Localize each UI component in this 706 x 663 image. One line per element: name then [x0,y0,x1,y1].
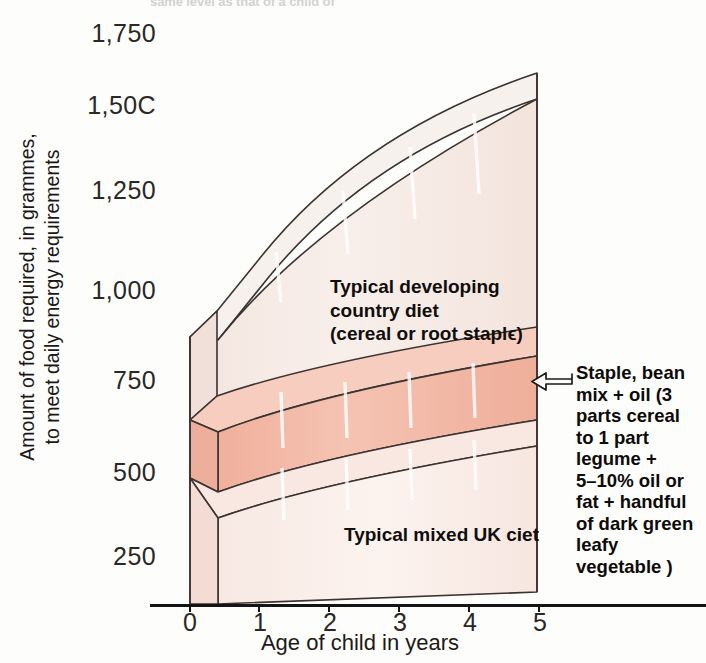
x-axis-title: Age of child in years [150,630,570,656]
series-label-uk-diet: Typical mixed UK ciet [344,523,539,547]
y-tick-label-1500: 1,50C [36,93,156,118]
series-label-developing-line-2: country diet [330,299,523,323]
callout-line-2: mix + oil (3 [576,384,706,406]
callout-line-10: vegetable ) [576,556,706,578]
y-tick-label-750: 750 [36,368,156,393]
callout-line-1: Staple, bean [576,362,706,384]
y-tick-label-1000: 1,000 [36,278,156,303]
callout-line-9: leafy [576,534,706,556]
x-axis-line [150,604,706,607]
callout-arrow-icon [532,373,572,390]
callout-staple-bean-mix: Staple, bean mix + oil (3 parts cereal t… [576,362,706,577]
callout-line-3: parts cereal [576,405,706,427]
callout-line-8: of dark green [576,513,706,535]
y-tick-label-1250: 1,250 [36,178,156,203]
y-tick-label-250: 250 [36,544,156,569]
y-tick-label-500: 500 [36,460,156,485]
callout-line-5: legume + [576,448,706,470]
chart-figure: same level as that of a child of [0,0,706,663]
callout-line-7: fat + handful [576,491,706,513]
callout-line-6: 5–10% oil or [576,470,706,492]
series-label-developing-line-3: (cereal or root staplϵ) [330,322,523,346]
callout-line-4: to 1 part [576,427,706,449]
series-label-developing-country-diet: Typical developing country diet (cereal … [330,275,523,346]
series-label-developing-line-1: Typical developing [330,275,523,299]
y-tick-label-1750: 1,750 [36,21,156,46]
